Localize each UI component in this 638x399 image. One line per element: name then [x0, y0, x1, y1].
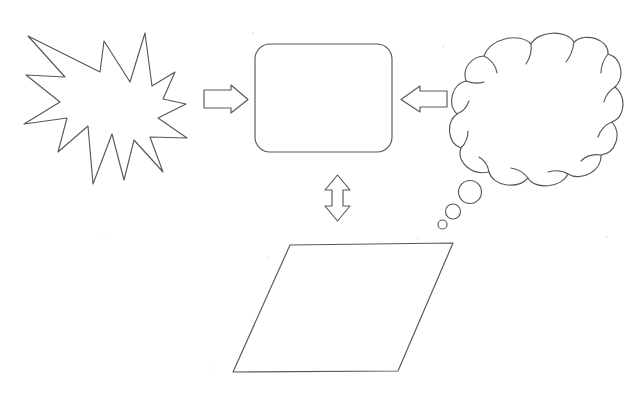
thought-bubble-large[interactable]	[459, 181, 482, 204]
thought-cloud-body	[450, 33, 623, 186]
left-pointing-block-arrow[interactable]	[401, 86, 447, 112]
vertical-double-headed-block-arrow[interactable]	[325, 175, 350, 221]
parallelogram-shape[interactable]	[233, 243, 453, 372]
right-pointing-block-arrow[interactable]	[204, 85, 248, 113]
starburst-explosion-shape[interactable]	[24, 33, 187, 184]
diagram-svg	[0, 0, 638, 399]
thought-bubble-medium[interactable]	[446, 204, 461, 219]
thought-bubble-small[interactable]	[438, 220, 447, 229]
rounded-rectangle-shape[interactable]	[255, 44, 392, 152]
diagram-canvas	[0, 0, 638, 399]
thought-cloud-shape[interactable]	[450, 33, 623, 186]
